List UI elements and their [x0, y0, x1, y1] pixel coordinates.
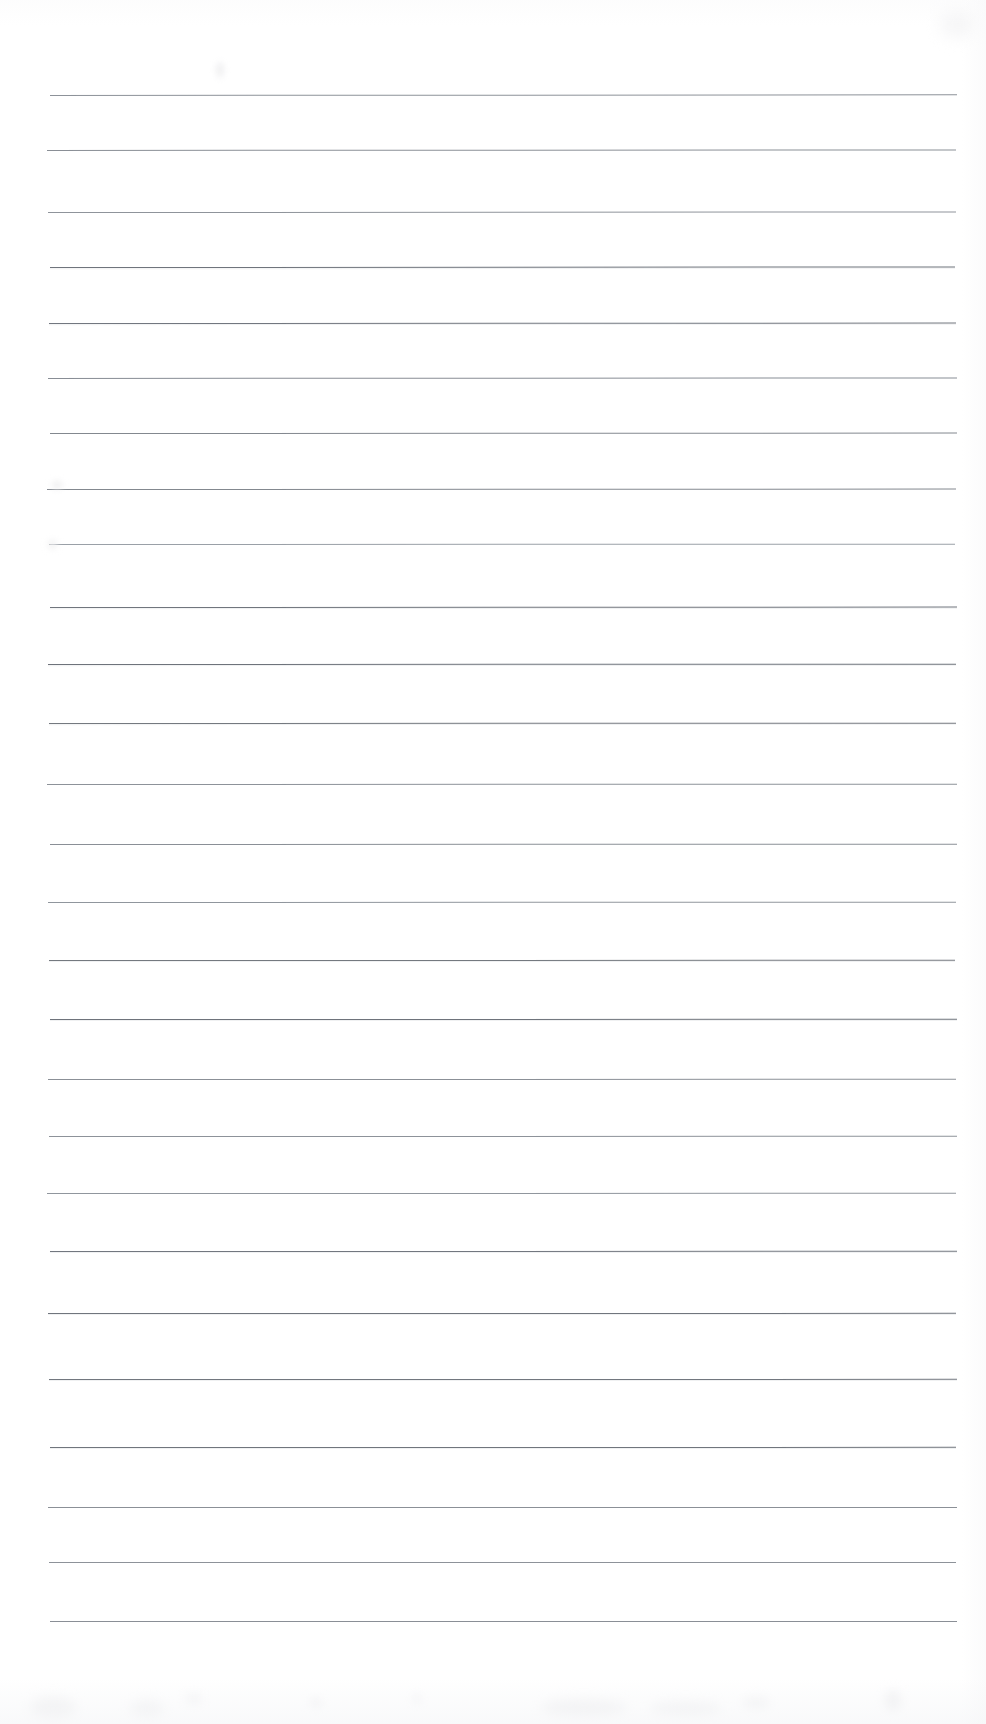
scan-smudge [412, 1694, 422, 1704]
ruled-line-stroke [50, 1621, 957, 1622]
ruled-line-halo [49, 324, 956, 325]
ruled-line-stroke [48, 1507, 957, 1508]
ruled-line [0, 1313, 986, 1316]
ruled-line [0, 489, 986, 492]
ruled-line-stroke [50, 1447, 956, 1448]
ruled-line [0, 212, 986, 215]
ruled-line [0, 902, 986, 905]
ruled-line-stroke [47, 149, 956, 151]
ruled-line-stroke [49, 1562, 956, 1563]
ruled-line [0, 1136, 986, 1139]
ruled-line-stroke [47, 784, 957, 785]
ruled-line [0, 1193, 986, 1196]
ruled-line-stroke [50, 94, 957, 96]
scan-edge-shade-top [0, 0, 986, 26]
ruled-line [0, 378, 986, 381]
scan-smudge [742, 1696, 770, 1710]
scan-smudge [30, 1697, 76, 1719]
ruled-line [0, 784, 986, 787]
ruled-line-stroke [48, 902, 956, 903]
ruled-line-halo [50, 1252, 957, 1253]
ruled-line-stroke [49, 544, 955, 545]
scan-smudge [52, 481, 62, 489]
scan-smudge [541, 1700, 627, 1716]
ruled-line-halo [48, 665, 956, 666]
ruled-line [0, 544, 986, 547]
scan-smudge [216, 62, 224, 78]
scan-edge-shade-right [962, 0, 986, 1724]
scan-smudge [884, 1690, 902, 1712]
ruled-line [0, 1507, 986, 1510]
scan-edge-shade-bottom [0, 1678, 986, 1724]
ruled-line-halo [49, 961, 955, 962]
ruled-line [0, 844, 986, 847]
scanned-page [0, 0, 986, 1724]
ruled-line-halo [50, 268, 955, 269]
ruled-line [0, 960, 986, 963]
ruled-line-stroke [49, 1379, 957, 1380]
scan-smudge [186, 1693, 202, 1705]
ruled-line-halo [48, 1314, 956, 1315]
ruled-line [0, 267, 986, 270]
scan-smudge [940, 8, 976, 38]
ruled-line [0, 433, 986, 436]
ruled-line-stroke [49, 1136, 957, 1137]
ruled-line [0, 1447, 986, 1450]
ruled-line-stroke [47, 489, 956, 490]
ruled-line-halo [50, 608, 957, 609]
ruled-line-stroke [50, 844, 957, 845]
ruled-line-stroke [48, 1079, 956, 1080]
ruled-line [0, 1379, 986, 1382]
ruled-line-stroke [50, 433, 957, 434]
ruled-line-stroke [50, 1251, 957, 1252]
ruled-line-halo [50, 1020, 957, 1021]
paper-surface [0, 0, 986, 1724]
ruled-line [0, 150, 986, 153]
ruled-line [0, 664, 986, 667]
ruled-line-stroke [48, 1313, 956, 1314]
ruled-line-halo [49, 724, 956, 725]
ruled-line-halo [50, 1448, 956, 1449]
ruled-line [0, 607, 986, 610]
ruled-line [0, 1079, 986, 1082]
ruled-line [0, 1019, 986, 1022]
scan-smudge [130, 1700, 164, 1718]
ruled-line [0, 323, 986, 326]
ruled-line [0, 1251, 986, 1254]
ruled-line-stroke [48, 377, 957, 379]
ruled-line [0, 1562, 986, 1565]
scan-smudge [310, 1698, 322, 1708]
ruled-line-stroke [48, 211, 956, 213]
ruled-line [0, 95, 986, 98]
ruled-line [0, 1621, 986, 1624]
ruled-line-stroke [47, 1193, 956, 1194]
ruled-line [0, 723, 986, 726]
ruled-line-halo [49, 1380, 957, 1381]
scan-smudge [650, 1702, 722, 1716]
